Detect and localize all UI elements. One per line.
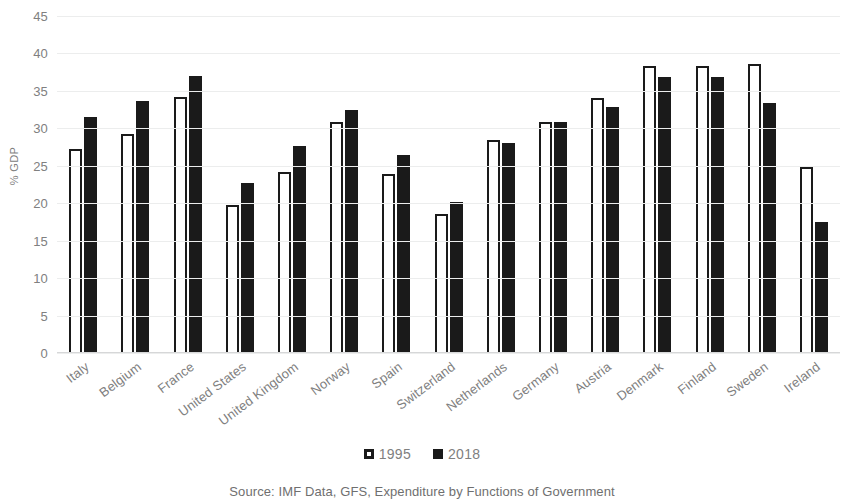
x-label-cell: Sweden: [736, 353, 788, 443]
bar-group: [161, 16, 213, 353]
bar-chart: % GDP 051015202530354045 ItalyBelgiumFra…: [0, 0, 844, 503]
bar-group: [736, 16, 788, 353]
y-tick-label: 5: [41, 308, 48, 323]
y-tick-label: 10: [33, 271, 48, 286]
bar-1995: [382, 174, 395, 353]
bar-2018: [502, 143, 515, 353]
bar-2018: [293, 146, 306, 353]
gridline: [57, 53, 840, 54]
bar-2018: [241, 183, 254, 353]
y-tick-label: 40: [33, 46, 48, 61]
bar-1995: [69, 149, 82, 353]
gridline: [57, 91, 840, 92]
y-tick-label: 30: [33, 121, 48, 136]
bar-2018: [554, 122, 567, 353]
x-label-cell: Italy: [57, 353, 109, 443]
bar-group: [109, 16, 161, 353]
legend-item-2018[interactable]: 2018: [433, 446, 480, 462]
y-tick-label: 25: [33, 158, 48, 173]
x-tick-label: Ireland: [781, 359, 823, 396]
plot-area: 051015202530354045: [57, 16, 840, 353]
gridline: [57, 316, 840, 317]
y-axis-title: % GDP: [8, 136, 20, 196]
x-label-cell: Norway: [318, 353, 370, 443]
bar-group: [57, 16, 109, 353]
x-label-cell: United Kingdom: [266, 353, 318, 443]
gridline: [57, 241, 840, 242]
gridline: [57, 16, 840, 17]
chart-legend: 19952018: [0, 446, 844, 462]
bar-2018: [658, 77, 671, 353]
gridline: [57, 278, 840, 279]
bar-group: [266, 16, 318, 353]
bar-1995: [696, 66, 709, 353]
bar-group: [683, 16, 735, 353]
bar-2018: [397, 155, 410, 353]
x-axis-labels: ItalyBelgiumFranceUnited StatesUnited Ki…: [57, 353, 840, 443]
x-label-cell: Belgium: [109, 353, 161, 443]
bar-groups: [57, 16, 840, 353]
bar-group: [318, 16, 370, 353]
bar-group: [579, 16, 631, 353]
x-tick-label: Austria: [572, 359, 614, 396]
gridline: [57, 203, 840, 204]
bar-1995: [539, 122, 552, 353]
bar-group: [527, 16, 579, 353]
bar-1995: [330, 122, 343, 353]
bar-group: [631, 16, 683, 353]
y-tick-label: 0: [41, 346, 48, 361]
x-tick-label: Spain: [369, 359, 405, 392]
bar-1995: [643, 66, 656, 353]
bar-1995: [435, 214, 448, 353]
bar-1995: [800, 167, 813, 353]
gridline: [57, 166, 840, 167]
bar-1995: [487, 140, 500, 353]
bar-2018: [84, 117, 97, 353]
legend-label: 1995: [379, 446, 411, 462]
legend-swatch-icon: [364, 449, 374, 459]
bar-2018: [189, 76, 202, 353]
x-tick-label: Italy: [63, 359, 92, 386]
y-tick-label: 15: [33, 233, 48, 248]
legend-item-1995[interactable]: 1995: [364, 446, 411, 462]
legend-swatch-icon: [433, 449, 443, 459]
bar-2018: [711, 77, 724, 353]
legend-label: 2018: [448, 446, 480, 462]
gridline: [57, 128, 840, 129]
x-tick-label: France: [154, 359, 196, 396]
x-label-cell: Ireland: [788, 353, 840, 443]
bar-group: [214, 16, 266, 353]
x-label-cell: Germany: [527, 353, 579, 443]
y-tick-label: 20: [33, 196, 48, 211]
x-label-cell: Denmark: [631, 353, 683, 443]
y-tick-label: 35: [33, 83, 48, 98]
bar-group: [370, 16, 422, 353]
bar-group: [475, 16, 527, 353]
x-label-cell: Finland: [683, 353, 735, 443]
bar-1995: [278, 172, 291, 353]
bar-1995: [748, 64, 761, 353]
bar-group: [788, 16, 840, 353]
bar-group: [422, 16, 474, 353]
source-note: Source: IMF Data, GFS, Expenditure by Fu…: [0, 484, 844, 499]
y-tick-label: 45: [33, 9, 48, 24]
